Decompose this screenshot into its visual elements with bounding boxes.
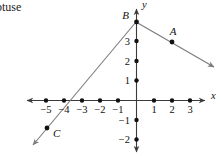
x-tick-label: 1 xyxy=(151,104,156,115)
point-label-b: B xyxy=(122,9,129,21)
x-tick-dots xyxy=(44,98,192,102)
point-marker-b xyxy=(134,20,139,25)
x-tick-labels: −5 −4 −3 −2 −1 1 2 3 xyxy=(40,104,192,115)
point-C: C xyxy=(45,126,61,139)
y-tick-label: 1 xyxy=(125,75,130,86)
x-tick-dot xyxy=(98,98,102,102)
x-tick-dot xyxy=(62,98,66,102)
y-tick-dot xyxy=(134,78,138,82)
y-tick-label: 2 xyxy=(125,56,130,67)
x-tick-dot xyxy=(188,98,192,102)
x-tick-dot xyxy=(152,98,156,102)
y-tick-label: −2 xyxy=(119,134,130,145)
point-label-a: A xyxy=(169,25,177,37)
x-tick-dot xyxy=(170,98,174,102)
point-marker-c xyxy=(45,126,50,131)
y-tick-label: 3 xyxy=(125,36,130,47)
coordinate-plane: −5 −4 −3 −2 −1 1 2 3 3 2 1 −1 −2 x y B A xyxy=(0,0,222,157)
x-tick-label: 2 xyxy=(169,104,174,115)
x-tick-label: −1 xyxy=(112,104,123,115)
y-tick-label: −1 xyxy=(119,115,130,126)
y-tick-dot xyxy=(134,59,138,63)
x-axis-label: x xyxy=(210,90,216,101)
x-tick-label: −5 xyxy=(40,104,51,115)
x-tick-label: −3 xyxy=(76,104,87,115)
x-tick-dot xyxy=(44,98,48,102)
y-tick-dot xyxy=(134,118,138,122)
y-axis-label: y xyxy=(141,0,147,10)
point-marker-a xyxy=(170,40,175,45)
point-label-c: C xyxy=(53,127,61,139)
x-tick-label: 3 xyxy=(187,104,192,115)
figure-root: btuse xyxy=(0,0,222,157)
x-tick-dot xyxy=(80,98,84,102)
y-tick-labels: 3 2 1 −1 −2 xyxy=(119,36,130,146)
x-tick-label: −2 xyxy=(94,104,105,115)
y-tick-dot xyxy=(134,137,138,141)
x-tick-dot xyxy=(116,98,120,102)
y-tick-dot xyxy=(134,39,138,43)
x-tick-label: −4 xyxy=(58,104,70,115)
point-A: A xyxy=(169,25,177,44)
